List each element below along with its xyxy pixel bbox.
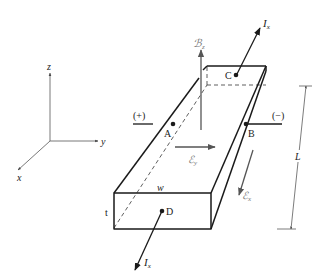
thickness-label: t xyxy=(105,207,108,218)
width-label: w xyxy=(157,182,164,193)
current-bottom-label: Ix xyxy=(143,256,152,270)
electric-field-x-arrow xyxy=(239,150,253,195)
point-a-dot xyxy=(171,122,176,127)
contact-points xyxy=(160,73,249,214)
electric-field-x-label: ℰx xyxy=(242,190,252,203)
hall-effect-diagram: z y x ℬz (+) (−) xyxy=(0,0,330,277)
current-top-label: Ix xyxy=(262,17,271,31)
electric-field-y-label: ℰy xyxy=(188,154,198,167)
minus-terminal-label: (−) xyxy=(272,110,284,122)
current-in-arrow xyxy=(237,28,260,74)
point-a-label: A xyxy=(164,128,172,139)
y-axis-label: y xyxy=(100,136,106,147)
point-b-dot xyxy=(244,122,249,127)
plus-terminal-label: (+) xyxy=(133,110,145,122)
x-axis xyxy=(18,141,50,170)
coordinate-axes: z y x xyxy=(16,61,106,183)
z-axis-label: z xyxy=(46,61,51,72)
length-label: L xyxy=(294,151,301,162)
point-b-label: B xyxy=(248,128,255,139)
magnetic-field-label: ℬz xyxy=(193,37,205,51)
current-arrows xyxy=(135,28,260,270)
point-c-label: C xyxy=(225,70,232,81)
x-axis-label: x xyxy=(16,172,22,183)
point-d-label: D xyxy=(166,206,173,217)
